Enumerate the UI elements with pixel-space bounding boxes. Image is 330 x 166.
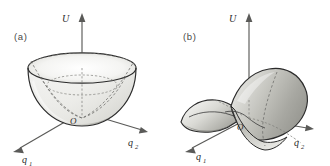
- panel-b-q1-axis-label: q: [196, 151, 201, 162]
- panel-b-q1-axis-subscript: 1: [203, 157, 206, 164]
- panel-b-label: (b): [183, 31, 196, 42]
- panel-a-q2-axis-subscript: 2: [135, 143, 139, 150]
- figure-root: (a) U q 2 q 1 O: [0, 0, 330, 166]
- panel-b-u-axis-label: U: [229, 13, 237, 24]
- panel-a-origin-label: O: [70, 116, 77, 126]
- panel-b-figure: (b) U q 2 q 1 O: [165, 0, 330, 166]
- panel-b-q2-axis-label: q: [294, 137, 299, 148]
- panel-a-q1-axis-subscript: 1: [29, 160, 32, 166]
- panel-b-origin-label: O: [237, 122, 244, 132]
- panel-a-q1-axis-label: q: [22, 154, 27, 165]
- panel-a-label: (a): [14, 31, 27, 42]
- panel-b-q2-axis-subscript: 2: [301, 143, 305, 150]
- panel-a-u-axis-label: U: [62, 13, 70, 24]
- panel-a-figure: (a) U q 2 q 1 O: [0, 0, 165, 166]
- panel-a-q2-axis-label: q: [128, 137, 133, 148]
- panel-b-saddle-surface: [181, 68, 307, 150]
